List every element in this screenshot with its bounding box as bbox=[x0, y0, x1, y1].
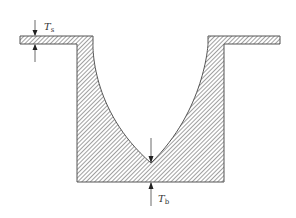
bottom-thickness-label: Tb bbox=[158, 193, 170, 206]
cup-section-diagram: Ts Tb bbox=[0, 0, 296, 218]
top-thickness-label: Ts bbox=[44, 21, 55, 34]
